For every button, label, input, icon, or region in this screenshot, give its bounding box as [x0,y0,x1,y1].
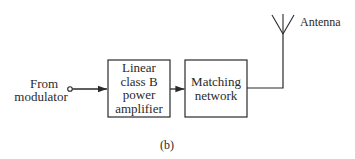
amplifier-line1: Linear [108,61,170,75]
amplifier-line4: amplifier [108,102,170,116]
input-label-line2: modulator [8,90,74,103]
amplifier-block: Linear class B power amplifier [108,61,170,115]
input-label: From modulator [14,77,74,103]
matching-network-block: Matching network [185,75,247,102]
amplifier-line3: power [108,88,170,102]
matching-line2: network [185,89,247,103]
antenna-label: Antenna [300,16,341,29]
amplifier-line2: class B [108,75,170,89]
matching-line1: Matching [185,75,247,89]
antenna-icon [272,14,294,34]
figure-caption: (b) [160,139,174,152]
